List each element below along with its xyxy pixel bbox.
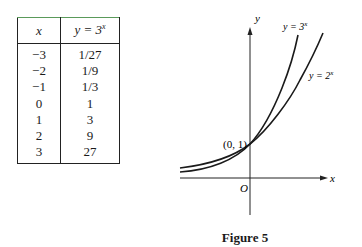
- curve-2-pow-x: [180, 33, 323, 168]
- x-axis-arrow-icon: [320, 176, 328, 181]
- curve-3x-label: y = 3x: [282, 20, 308, 32]
- y-axis-label: y: [254, 12, 260, 24]
- figure-caption: Figure 5: [210, 230, 280, 246]
- point-label: (0, 1): [223, 138, 247, 151]
- y-axis-arrow-icon: [248, 27, 253, 35]
- exponential-graph: y x O (0, 1) y = 3x y = 2x: [0, 0, 362, 247]
- origin-label: O: [240, 182, 248, 194]
- curve-2x-label: y = 2x: [308, 69, 334, 81]
- x-axis-label: x: [329, 172, 335, 184]
